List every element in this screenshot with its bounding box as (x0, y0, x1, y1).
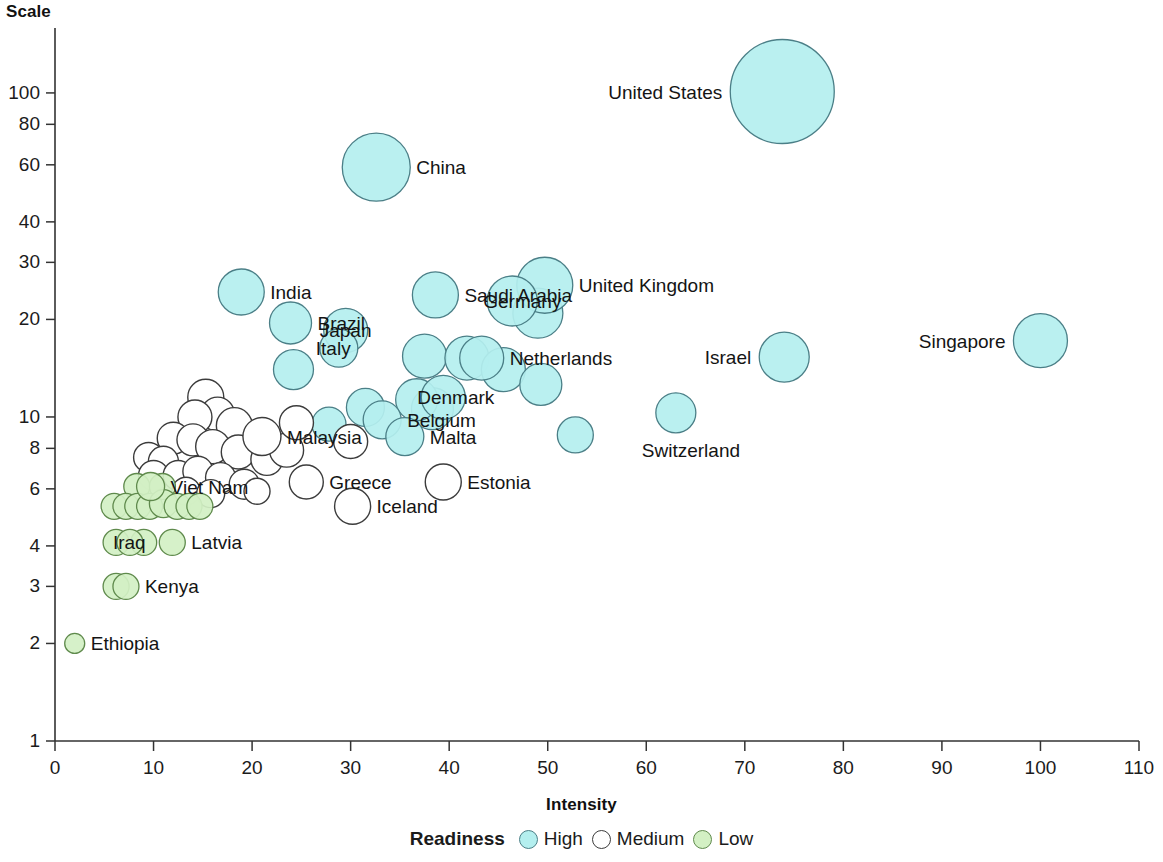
legend-item-medium[interactable]: Medium (592, 828, 685, 850)
y-tick-label: 6 (0, 478, 40, 500)
bubble-label-singapore: Singapore (919, 331, 1006, 350)
bubble-label-brazil: Brazil (318, 313, 366, 332)
chart-canvas: Scale 1234681020304060801000102030405060… (0, 0, 1163, 862)
bubble-label-italy: Italy (316, 339, 351, 358)
bubble-label-saudi-arabia: Saudi Arabia (464, 285, 572, 304)
y-tick-label: 40 (0, 211, 40, 233)
legend-swatch-high-icon (519, 830, 538, 849)
bubble-label-kenya: Kenya (145, 577, 199, 596)
bubble-label-netherlands: Netherlands (510, 349, 612, 368)
x-tick-label: 50 (518, 757, 578, 779)
bubble-ethiopia[interactable] (65, 633, 85, 653)
bubble-label-iraq: Iraq (113, 533, 146, 552)
x-tick-label: 90 (912, 757, 972, 779)
bubble-iceland[interactable] (335, 488, 371, 524)
x-tick-label: 110 (1109, 757, 1163, 779)
x-tick-label: 100 (1010, 757, 1070, 779)
bubble-unlabeled[interactable] (403, 334, 447, 378)
x-tick-label: 70 (715, 757, 775, 779)
bubble-india[interactable] (218, 269, 264, 315)
y-tick-label: 60 (0, 154, 40, 176)
legend-label: Medium (617, 828, 685, 850)
legend-label: High (544, 828, 583, 850)
bubble-chart-plot (0, 0, 1163, 862)
bubble-israel[interactable] (759, 332, 809, 382)
bubble-label-united-states: United States (608, 82, 722, 101)
x-tick-label: 60 (616, 757, 676, 779)
bubble-label-latvia: Latvia (191, 533, 242, 552)
bubble-unlabeled[interactable] (557, 417, 593, 453)
bubble-singapore[interactable] (1013, 314, 1067, 368)
bubble-viet-nam[interactable] (137, 473, 165, 501)
bubble-label-india: India (270, 283, 311, 302)
bubble-switzerland[interactable] (656, 393, 696, 433)
y-tick-label: 20 (0, 308, 40, 330)
legend-item-low[interactable]: Low (693, 828, 753, 850)
y-tick-label: 1 (0, 730, 40, 752)
bubble-greece[interactable] (289, 465, 323, 499)
bubble-unlabeled[interactable] (187, 493, 213, 519)
y-tick-label: 80 (0, 113, 40, 135)
bubble-label-china: China (416, 158, 466, 177)
legend-title: Readiness (410, 828, 505, 850)
bubble-label-malaysia: Malaysia (287, 427, 362, 446)
legend-swatch-medium-icon (592, 830, 611, 849)
x-tick-label: 80 (813, 757, 873, 779)
y-tick-label: 2 (0, 632, 40, 654)
bubble-group (65, 40, 1068, 654)
bubble-label-iceland: Iceland (377, 497, 438, 516)
bubble-label-viet-nam: Viet Nam (171, 477, 249, 496)
bubble-label-united-kingdom: United Kingdom (579, 276, 714, 295)
bubble-brazil[interactable] (270, 302, 312, 344)
x-tick-label: 40 (419, 757, 479, 779)
x-axis-title: Intensity (0, 795, 1163, 815)
bubble-unlabeled[interactable] (273, 350, 313, 390)
bubble-label-denmark: Denmark (417, 388, 494, 407)
y-tick-label: 8 (0, 437, 40, 459)
legend-swatch-low-icon (693, 830, 712, 849)
legend: Readiness HighMediumLow (0, 828, 1163, 850)
bubble-label-israel: Israel (705, 348, 751, 367)
y-tick-label: 10 (0, 406, 40, 428)
bubble-united-states[interactable] (730, 40, 834, 144)
bubble-saudi-arabia[interactable] (412, 272, 458, 318)
legend-item-high[interactable]: High (519, 828, 583, 850)
x-tick-label: 20 (222, 757, 282, 779)
bubble-malaysia[interactable] (243, 418, 281, 456)
x-tick-label: 10 (124, 757, 184, 779)
x-tick-label: 0 (25, 757, 85, 779)
y-tick-label: 4 (0, 535, 40, 557)
bubble-china[interactable] (342, 133, 410, 201)
bubble-label-ethiopia: Ethiopia (91, 634, 160, 653)
legend-label: Low (718, 828, 753, 850)
x-tick-label: 30 (321, 757, 381, 779)
bubble-estonia[interactable] (425, 464, 461, 500)
bubble-kenya[interactable] (113, 573, 139, 599)
bubble-label-estonia: Estonia (467, 472, 530, 491)
bubble-latvia[interactable] (159, 529, 185, 555)
bubble-unlabeled[interactable] (520, 363, 562, 405)
y-tick-label: 3 (0, 575, 40, 597)
y-tick-label: 100 (0, 82, 40, 104)
bubble-label-greece: Greece (329, 472, 391, 491)
bubble-label-switzerland: Switzerland (642, 441, 740, 460)
bubble-netherlands[interactable] (460, 336, 504, 380)
bubble-label-malta: Malta (430, 427, 476, 446)
y-tick-label: 30 (0, 251, 40, 273)
